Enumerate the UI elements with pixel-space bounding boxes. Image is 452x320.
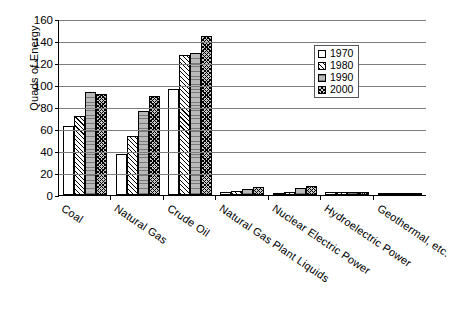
bar[interactable] <box>306 186 317 195</box>
x-axis-labels: CoalNatural GasCrude OilNatural Gas Plan… <box>58 198 426 318</box>
bar[interactable] <box>325 192 336 195</box>
y-tick-mark <box>55 196 59 197</box>
gridline <box>59 86 426 87</box>
bar[interactable] <box>273 193 284 195</box>
bar[interactable] <box>400 193 411 195</box>
legend-item[interactable]: 1990 <box>318 72 353 83</box>
y-tick-label: 60 <box>40 124 53 136</box>
bar[interactable] <box>378 193 389 195</box>
bar-chart: Quads of Energy 020406080100120140160 Co… <box>0 0 452 320</box>
legend-label: 2000 <box>330 84 353 95</box>
y-tick-mark <box>55 64 59 65</box>
bar[interactable] <box>336 192 347 195</box>
y-tick-label: 160 <box>34 14 53 26</box>
y-tick-mark <box>55 130 59 131</box>
bar[interactable] <box>295 188 306 195</box>
bar[interactable] <box>127 136 138 195</box>
y-tick-label: 20 <box>40 168 53 180</box>
gridline <box>59 152 426 153</box>
bar[interactable] <box>358 192 369 195</box>
bar[interactable] <box>138 111 149 195</box>
gridline <box>59 130 426 131</box>
bar[interactable] <box>253 187 264 195</box>
y-tick-mark <box>55 174 59 175</box>
bar[interactable] <box>347 192 358 195</box>
x-axis-label: Natural Gas <box>112 202 169 246</box>
legend-swatch-2000-icon <box>318 86 326 94</box>
y-tick-mark <box>55 86 59 87</box>
y-tick-label: 140 <box>34 36 53 48</box>
bar[interactable] <box>411 193 422 195</box>
legend-swatch-1980-icon <box>318 62 326 70</box>
bar[interactable] <box>201 36 212 196</box>
bar[interactable] <box>168 89 179 195</box>
legend-item[interactable]: 1980 <box>318 60 353 71</box>
bar[interactable] <box>231 191 242 196</box>
y-tick-label: 120 <box>34 58 53 70</box>
gridline <box>59 174 426 175</box>
x-axis-label: Hydroelectric Power <box>323 202 414 269</box>
gridline <box>59 108 426 109</box>
y-tick-label: 80 <box>40 102 53 114</box>
x-axis-label: Coal <box>60 202 86 225</box>
y-tick-mark <box>55 152 59 153</box>
bar[interactable] <box>284 192 295 195</box>
y-tick-label: 100 <box>34 80 53 92</box>
legend-item[interactable]: 1970 <box>318 48 353 59</box>
bar[interactable] <box>74 116 85 195</box>
plot-area: 020406080100120140160 <box>58 20 426 196</box>
gridline <box>59 64 426 65</box>
x-axis-label: Crude Oil <box>165 202 212 239</box>
legend-label: 1970 <box>330 48 353 59</box>
x-axis-label: Nuclear Electric Power <box>270 202 373 277</box>
y-tick-mark <box>55 108 59 109</box>
y-tick-mark <box>55 20 59 21</box>
legend: 1970 1980 1990 2000 <box>314 45 359 98</box>
bar[interactable] <box>242 189 253 195</box>
gridline <box>59 42 426 43</box>
bar[interactable] <box>149 96 160 195</box>
legend-swatch-1970-icon <box>318 50 326 58</box>
y-tick-mark <box>55 42 59 43</box>
bar[interactable] <box>220 192 231 195</box>
gridline <box>59 20 426 21</box>
legend-label: 1990 <box>330 72 353 83</box>
legend-label: 1980 <box>330 60 353 71</box>
bar[interactable] <box>389 193 400 195</box>
y-tick-label: 0 <box>47 190 53 202</box>
bar[interactable] <box>63 126 74 195</box>
y-tick-label: 40 <box>40 146 53 158</box>
legend-item[interactable]: 2000 <box>318 84 353 95</box>
legend-swatch-1990-icon <box>318 74 326 82</box>
